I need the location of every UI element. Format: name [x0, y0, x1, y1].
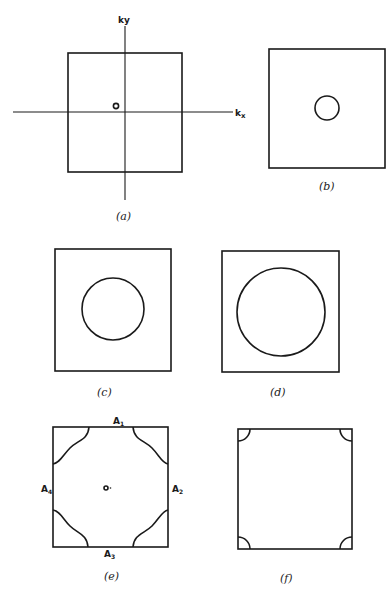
caption-c: (c) — [97, 386, 112, 399]
fermi-surface-diagram: ky kx (a) (b) (c) (d) A1 A2 A3 A4 (e) — [0, 0, 387, 595]
panel-c: (c) — [55, 249, 171, 399]
origin-point-e — [104, 486, 108, 490]
fermi-curve-bottom-left — [53, 510, 88, 547]
brillouin-zone-e — [53, 427, 168, 547]
fermi-arc-top-right — [340, 429, 352, 441]
brillouin-zone-f — [238, 429, 352, 549]
panel-d: (d) — [222, 251, 339, 399]
fermi-curve-top-left — [53, 427, 89, 464]
caption-a: (a) — [116, 210, 131, 223]
fermi-curve-bottom-right — [133, 510, 168, 547]
fermi-arc-bottom-right — [340, 537, 352, 549]
kx-label: kx — [235, 108, 246, 120]
panel-e: A1 A2 A3 A4 (e) — [41, 416, 183, 583]
panel-f: (f) — [238, 429, 352, 585]
caption-d: (d) — [270, 386, 286, 399]
fermi-arc-bottom-left — [238, 537, 250, 549]
caption-e: (e) — [104, 570, 119, 583]
origin-point-a — [113, 103, 118, 108]
edge-label-a3: A3 — [104, 549, 115, 560]
fermi-circle-d — [237, 268, 325, 356]
caption-f: (f) — [280, 572, 293, 585]
fermi-arc-top-left — [238, 429, 250, 441]
origin-dot-e — [110, 487, 112, 489]
edge-label-a2: A2 — [172, 484, 183, 495]
caption-b: (b) — [319, 180, 335, 193]
ky-label: ky — [118, 15, 130, 25]
brillouin-zone-b — [269, 49, 385, 168]
panel-a: ky kx (a) — [13, 15, 246, 223]
brillouin-zone-c — [55, 249, 171, 371]
edge-label-a1: A1 — [113, 416, 124, 427]
fermi-circle-b — [315, 96, 339, 120]
fermi-curve-top-right — [133, 427, 168, 464]
panel-b: (b) — [269, 49, 385, 193]
fermi-circle-c — [82, 278, 144, 340]
edge-label-a4: A4 — [41, 484, 52, 495]
brillouin-zone-d — [222, 251, 339, 372]
